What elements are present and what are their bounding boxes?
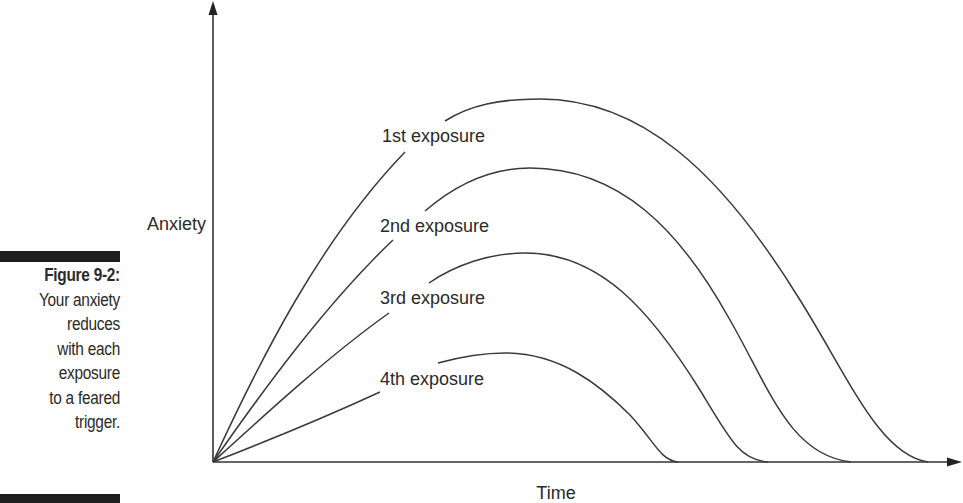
x-axis-label: Time — [536, 483, 575, 503]
series-label-1st: 1st exposure — [382, 126, 485, 146]
y-axis-label: Anxiety — [147, 214, 206, 234]
curve-2nd-exposure — [213, 168, 851, 462]
y-axis-arrow-icon — [209, 1, 218, 15]
curve-3rd-exposure — [213, 253, 768, 462]
series-label-3rd: 3rd exposure — [380, 288, 485, 308]
x-axis-arrow-icon — [947, 458, 962, 467]
series-label-2nd: 2nd exposure — [380, 216, 489, 236]
anxiety-exposure-chart: Anxiety Time 1st exposure 2nd exposure 3… — [0, 0, 963, 503]
series-label-4th: 4th exposure — [380, 369, 484, 389]
curve-1st-exposure — [213, 99, 928, 462]
